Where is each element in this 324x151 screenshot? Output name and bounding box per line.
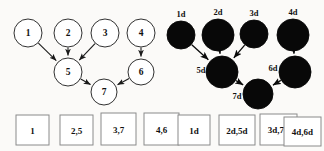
node-label-d1: 1d <box>177 9 186 19</box>
node-label-n3: 3 <box>103 28 108 38</box>
node-label-n4: 4 <box>139 28 144 38</box>
left-diagram-edges <box>38 43 141 85</box>
right-diagram-edges <box>192 45 294 85</box>
edge-d1-to-d5 <box>192 45 209 60</box>
legend-box-label-1: 1 <box>30 126 35 136</box>
right-diagram-boxes: 1d2d,5d3d,7d4d,6d <box>178 114 321 146</box>
node-label-d6: 6d <box>269 63 278 73</box>
right-diagram: 1d2d3d4d5d6d7d 1d2d,5d3d,7d4d,6d <box>167 7 321 146</box>
left-diagram-boxes: 12,53,74,6 <box>16 113 179 145</box>
left-diagram-nodes: 1234567 <box>14 19 155 105</box>
node-d2[interactable] <box>202 19 234 51</box>
right-diagram-nodes: 1d2d3d4d5d6d7d <box>167 7 311 109</box>
legend-box-label-3: 3,7 <box>113 125 125 135</box>
legend-box-label-1: 1d <box>189 126 199 136</box>
node-label-d3: 3d <box>250 8 259 18</box>
edge-d6-to-d7 <box>273 80 281 85</box>
legend-box-label-4: 4,6 <box>156 125 168 135</box>
edge-d5-to-d7 <box>236 81 243 85</box>
edge-d3-to-d5 <box>234 45 245 58</box>
node-label-d7: 7d <box>233 91 242 101</box>
figure-root: 1234567 12,53,74,6 1d2d3d4d5d6d7d 1d2d,5… <box>0 0 324 151</box>
node-label-n5: 5 <box>66 67 71 77</box>
node-label-n2: 2 <box>66 28 71 38</box>
node-label-d5: 5d <box>197 65 206 75</box>
edge-n3-to-n5 <box>79 44 95 61</box>
node-label-n7: 7 <box>102 87 107 97</box>
node-d7[interactable] <box>243 79 273 109</box>
node-label-n6: 6 <box>139 67 144 77</box>
dag-figure-canvas: 1234567 12,53,74,6 1d2d3d4d5d6d7d 1d2d,5… <box>0 0 324 151</box>
node-d5[interactable] <box>206 56 238 88</box>
legend-box-label-4: 4d,6d <box>292 127 313 137</box>
node-d6[interactable] <box>279 56 311 88</box>
node-label-n1: 1 <box>26 28 31 38</box>
edge-n1-to-n5 <box>38 43 56 60</box>
node-label-d4: 4d <box>289 7 298 17</box>
node-d4[interactable] <box>277 19 309 51</box>
left-diagram: 1234567 12,53,74,6 <box>14 19 179 145</box>
node-d3[interactable] <box>240 20 268 48</box>
legend-box-label-2: 2d,5d <box>226 126 247 136</box>
node-d1[interactable] <box>167 21 195 49</box>
edge-n5-to-n7 <box>81 79 91 84</box>
legend-box-label-2: 2,5 <box>71 126 83 136</box>
node-label-d2: 2d <box>214 7 223 17</box>
edge-n6-to-n7 <box>118 78 130 84</box>
